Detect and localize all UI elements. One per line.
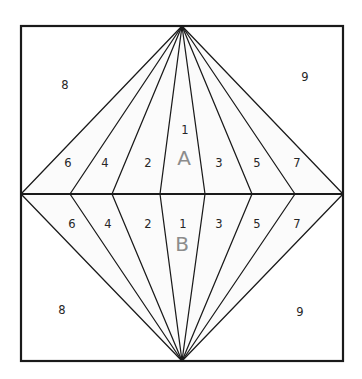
- sector-label-upper-4: 4: [101, 156, 108, 170]
- sector-label-lower-5: 5: [253, 217, 260, 231]
- sector-label-lower-1: 1: [179, 217, 186, 231]
- sector-label-lower-4: 4: [104, 217, 111, 231]
- corner-label-bottom-right-9: 9: [296, 305, 303, 319]
- sector-label-lower-7: 7: [293, 217, 300, 231]
- sector-label-upper-2: 2: [144, 156, 151, 170]
- sector-label-upper-6: 6: [64, 156, 71, 170]
- sector-label-upper-3: 3: [215, 156, 222, 170]
- sector-label-upper-7: 7: [293, 156, 300, 170]
- sector-label-lower-3: 3: [215, 217, 222, 231]
- sector-label-lower-2: 2: [144, 217, 151, 231]
- corner-label-bottom-left-8: 8: [58, 303, 65, 317]
- sector-label-upper-5: 5: [253, 156, 260, 170]
- sector-label-upper-1: 1: [181, 123, 188, 137]
- region-label-a: A: [177, 146, 191, 170]
- corner-label-top-left-8: 8: [61, 78, 68, 92]
- sector-label-lower-6: 6: [68, 217, 75, 231]
- corner-label-top-right-9: 9: [301, 70, 308, 84]
- region-label-b: B: [175, 232, 189, 256]
- geometric-figure: 1 2 3 4 5 6 7 1 2 3 4 5 6 7 8 9 8 9 A B: [0, 0, 362, 379]
- diagram-canvas: 1 2 3 4 5 6 7 1 2 3 4 5 6 7 8 9 8 9 A B: [0, 0, 362, 379]
